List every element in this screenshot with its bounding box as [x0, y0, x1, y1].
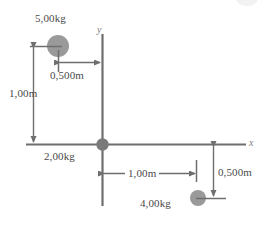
mass-2kg-label: 2,00kg: [44, 151, 75, 162]
physics-mass-diagram: 5,00kg 0,500m 1,00m 2,00kg 1,00m 0,500m …: [0, 0, 269, 226]
dim-horizontal-top-label: 0,500m: [50, 70, 84, 81]
dim-vertical-left-label: 1,00m: [9, 88, 37, 99]
diagram-canvas: [0, 0, 269, 226]
dim-vertical-right-label: 0,500m: [218, 167, 252, 178]
mass-4kg-label: 4,00kg: [140, 198, 171, 209]
dim-horizontal-bottom-label: 1,00m: [125, 168, 159, 179]
x-axis-label: x: [249, 138, 254, 148]
y-axis-label: y: [97, 25, 102, 35]
mass-5kg-label: 5,00kg: [35, 13, 66, 24]
mass-2kg-marker: [96, 138, 108, 150]
